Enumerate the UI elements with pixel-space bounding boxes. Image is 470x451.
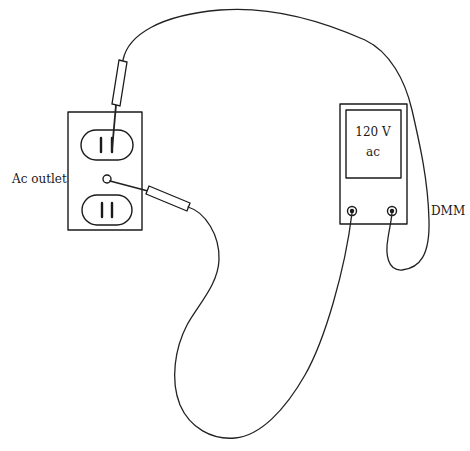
voltage-measurement-diagram: Ac outlet 120 V ac DMM (0, 0, 470, 451)
probe-1-handle (112, 60, 127, 106)
dmm: 120 V ac (340, 104, 407, 224)
dmm-display (346, 110, 401, 178)
probe-2-handle (146, 186, 190, 211)
probe-2 (110, 181, 352, 438)
display-reading: 120 V (355, 125, 391, 139)
ac-outlet (68, 112, 142, 230)
top-receptacle (81, 130, 133, 160)
dmm-label: DMM (431, 204, 465, 218)
probe-1 (112, 9, 429, 270)
bottom-receptacle (82, 195, 132, 225)
outlet-label: Ac outlet (11, 172, 67, 186)
display-unit: ac (366, 145, 380, 159)
dmm-body (340, 104, 407, 224)
